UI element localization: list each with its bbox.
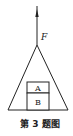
block-b-label: B bbox=[35, 98, 41, 107]
arrowhead-icon bbox=[35, 9, 38, 17]
diagram-canvas: F A B bbox=[0, 0, 73, 136]
figure-caption: 第 3 题图 bbox=[0, 117, 73, 130]
block-a-label: A bbox=[34, 84, 41, 93]
force-arrow bbox=[35, 6, 38, 45]
force-label: F bbox=[40, 32, 48, 42]
